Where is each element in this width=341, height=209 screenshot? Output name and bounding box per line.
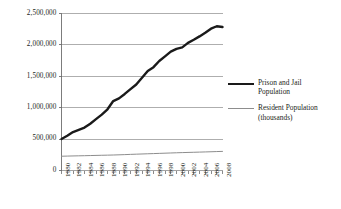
legend-item-resident-population: Resident Population (thousands) — [228, 103, 340, 121]
x-axis-tick-label: 1988 — [111, 162, 118, 176]
legend-label-line-1: Resident Population — [258, 103, 340, 112]
legend-label-line-2: Population — [258, 87, 340, 96]
x-axis-tick-label: 2002 — [191, 162, 198, 176]
x-axis-tick-label: 1996 — [157, 162, 164, 176]
legend-label-line-2: (thousands) — [258, 113, 340, 122]
x-axis-tick-label: 1990 — [122, 162, 129, 176]
legend-label-line-1: Prison and Jail — [258, 78, 340, 87]
y-axis-tick-label: 1,500,000 — [27, 73, 57, 80]
x-axis-tick-label: 2006 — [214, 162, 221, 176]
x-axis-tick-label: 1986 — [99, 162, 106, 176]
x-axis-tick-label: 1980 — [65, 162, 72, 176]
y-axis-tick-label: 2,000,000 — [27, 41, 57, 48]
y-axis-tick-label: 500,000 — [32, 135, 56, 142]
x-axis-tick-label: 2004 — [203, 162, 210, 176]
legend-swatch-resident-population — [228, 108, 254, 109]
legend-item-prison-and-jail-population: Prison and Jail Population — [228, 78, 340, 96]
chart-legend: Prison and Jail Population Resident Popu… — [228, 78, 340, 129]
line-chart: 0500,0001,000,0001,500,0002,000,0002,500… — [0, 0, 341, 209]
legend-swatch-prison-and-jail-population — [228, 83, 254, 85]
y-axis-tick-label: 1,000,000 — [27, 104, 57, 111]
x-axis-tick-label: 2000 — [180, 162, 187, 176]
y-axis-tick-label: 0 — [53, 167, 57, 174]
x-axis-tick-label: 1998 — [168, 162, 175, 176]
x-axis-tick-label: 1982 — [76, 162, 83, 176]
x-axis-tick-label: 2008 — [226, 162, 233, 176]
x-axis-tick-label: 1992 — [134, 162, 141, 176]
x-axis-tick-label: 1984 — [88, 162, 95, 176]
y-axis-tick-label: 2,500,000 — [27, 10, 57, 17]
x-axis-tick-label: 1994 — [145, 162, 152, 176]
